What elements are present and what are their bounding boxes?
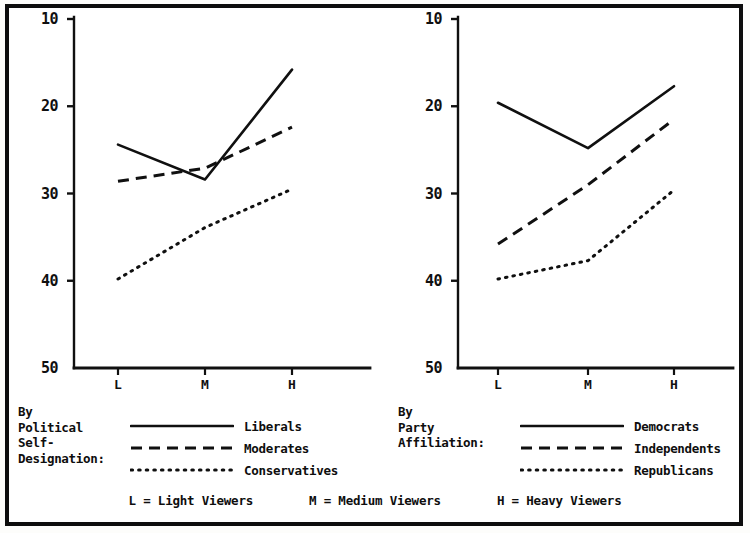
legend-right-entries: DemocratsIndependentsRepublicans <box>520 415 721 481</box>
legend-label-conservatives: Conservatives <box>244 463 338 478</box>
series-line-republicans <box>498 190 674 279</box>
viewer-key-item-0: L = Light Viewers <box>129 493 254 508</box>
legend-line-sample-solid <box>130 420 234 432</box>
legend-entry-democrats: Democrats <box>520 415 721 437</box>
series-line-conservatives <box>118 189 292 279</box>
legend-left-entries: LiberalsModeratesConservatives <box>130 415 338 481</box>
legend-swatch-dotted-icon <box>130 464 234 476</box>
legend-label-democrats: Democrats <box>634 419 699 434</box>
legend-label-moderates: Moderates <box>244 441 309 456</box>
left-y-tick-30: 30 <box>28 185 58 203</box>
viewer-key: L = Light ViewersM = Medium ViewersH = H… <box>0 493 750 508</box>
legend-line-sample-solid <box>520 420 624 432</box>
legend-entry-moderates: Moderates <box>130 437 338 459</box>
legend-entry-independents: Independents <box>520 437 721 459</box>
left-y-tick-50: 50 <box>28 359 58 377</box>
chart-panel-right: 50 40 30 20 10 L M H <box>398 8 738 398</box>
left-x-tick-h: H <box>282 377 302 392</box>
left-y-tick-20: 20 <box>28 97 58 115</box>
legend-swatch-dotted-icon <box>520 464 624 476</box>
legend-left-caption: By Political Self- Designation: <box>18 404 105 466</box>
left-x-tick-l: L <box>108 377 128 392</box>
right-y-tick-50: 50 <box>412 359 442 377</box>
viewer-key-item-1: M = Medium Viewers <box>309 493 441 508</box>
series-line-liberals <box>118 70 292 180</box>
left-x-tick-m: M <box>195 377 215 392</box>
right-y-tick-10: 10 <box>412 10 442 28</box>
left-plot-area <box>18 8 378 398</box>
legend-swatch-solid-icon <box>520 420 624 432</box>
series-line-independents <box>498 119 674 244</box>
viewer-key-item-2: H = Heavy Viewers <box>497 493 622 508</box>
legend-line-sample-dashed <box>520 442 624 454</box>
right-y-tick-20: 20 <box>412 97 442 115</box>
legend-swatch-dashed-icon <box>520 442 624 454</box>
legend-entry-liberals: Liberals <box>130 415 338 437</box>
legend-label-republicans: Republicans <box>634 463 713 478</box>
right-y-tick-30: 30 <box>412 185 442 203</box>
right-x-tick-h: H <box>664 377 684 392</box>
legend-line-sample-dotted <box>130 464 234 476</box>
legend-entry-republicans: Republicans <box>520 459 721 481</box>
legend-line-sample-dotted <box>520 464 624 476</box>
right-x-tick-l: L <box>488 377 508 392</box>
figure-root: 50 40 30 20 10 L M H 50 40 30 20 10 L M … <box>0 0 750 533</box>
right-plot-area <box>398 8 738 398</box>
legend-swatch-dashed-icon <box>130 442 234 454</box>
left-y-tick-40: 40 <box>28 272 58 290</box>
right-y-tick-40: 40 <box>412 272 442 290</box>
legend-right-caption: By Party Affiliation: <box>398 404 485 451</box>
right-x-tick-m: M <box>578 377 598 392</box>
chart-panel-left: 50 40 30 20 10 L M H <box>18 8 378 398</box>
legend-label-independents: Independents <box>634 441 721 456</box>
legend-entry-conservatives: Conservatives <box>130 459 338 481</box>
left-y-tick-10: 10 <box>28 10 58 28</box>
legend-swatch-solid-icon <box>130 420 234 432</box>
legend-line-sample-dashed <box>130 442 234 454</box>
legend-label-liberals: Liberals <box>244 419 302 434</box>
